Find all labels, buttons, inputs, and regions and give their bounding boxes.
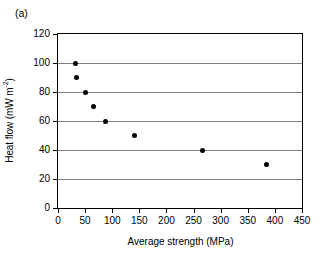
y-tick-label-20: 20 xyxy=(39,172,50,185)
y-tick-120: 120 xyxy=(53,34,58,35)
data-point xyxy=(83,90,88,95)
y-axis-title-main: Heat flow (mW m xyxy=(4,88,15,163)
x-tick-label-450: 450 xyxy=(294,214,311,227)
plot-area: 0204060801001200501001502002503003504004… xyxy=(57,33,303,209)
figure-panel-a: (a) Heat flow (mW m-2) 02040608010012005… xyxy=(0,0,331,259)
x-tick-100: 100 xyxy=(112,208,113,213)
data-point xyxy=(91,104,96,109)
x-tick-250: 250 xyxy=(194,208,195,213)
y-tick-label-120: 120 xyxy=(33,27,50,40)
y-tick-100: 100 xyxy=(53,63,58,64)
x-tick-0: 0 xyxy=(58,208,59,213)
y-axis-title-exponent: -2 xyxy=(2,82,9,88)
x-tick-label-250: 250 xyxy=(185,214,202,227)
y-tick-80: 80 xyxy=(53,92,58,93)
data-point xyxy=(264,162,269,167)
y-axis-title: Heat flow (mW m-2) xyxy=(0,32,18,209)
x-tick-label-200: 200 xyxy=(158,214,175,227)
x-tick-150: 150 xyxy=(139,208,140,213)
data-point xyxy=(74,75,79,80)
gridline-y-20 xyxy=(58,179,302,180)
gridline-y-100 xyxy=(58,63,302,64)
x-tick-300: 300 xyxy=(221,208,222,213)
x-tick-label-50: 50 xyxy=(80,214,91,227)
y-tick-label-100: 100 xyxy=(33,56,50,69)
y-tick-60: 60 xyxy=(53,121,58,122)
y-axis-title-text: Heat flow (mW m-2) xyxy=(4,78,15,162)
x-axis-title: Average strength (MPa) xyxy=(57,236,304,247)
y-tick-label-40: 40 xyxy=(39,143,50,156)
x-tick-200: 200 xyxy=(166,208,167,213)
x-tick-400: 400 xyxy=(275,208,276,213)
panel-label: (a) xyxy=(15,7,28,20)
data-point xyxy=(73,61,78,66)
y-tick-label-0: 0 xyxy=(44,201,50,214)
data-point xyxy=(103,119,108,124)
x-tick-label-0: 0 xyxy=(55,214,61,227)
gridline-y-80 xyxy=(58,92,302,93)
y-axis-title-tail: ) xyxy=(4,78,15,81)
x-tick-label-400: 400 xyxy=(267,214,284,227)
data-point xyxy=(132,133,137,138)
x-tick-label-100: 100 xyxy=(104,214,121,227)
x-tick-label-350: 350 xyxy=(239,214,256,227)
y-tick-40: 40 xyxy=(53,150,58,151)
gridline-y-60 xyxy=(58,121,302,122)
x-tick-350: 350 xyxy=(248,208,249,213)
gridline-y-40 xyxy=(58,150,302,151)
x-tick-label-150: 150 xyxy=(131,214,148,227)
y-tick-label-60: 60 xyxy=(39,114,50,127)
data-point xyxy=(200,148,205,153)
y-tick-20: 20 xyxy=(53,179,58,180)
x-tick-450: 450 xyxy=(302,208,303,213)
x-tick-label-300: 300 xyxy=(212,214,229,227)
y-tick-label-80: 80 xyxy=(39,85,50,98)
x-tick-50: 50 xyxy=(85,208,86,213)
